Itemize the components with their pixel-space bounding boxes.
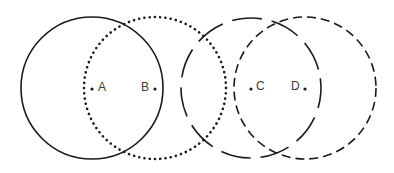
center-point-d (303, 87, 306, 90)
label-a: A (98, 80, 106, 94)
center-point-b (153, 87, 156, 90)
label-c: C (256, 79, 265, 93)
center-point-c (249, 87, 252, 90)
center-point-a (90, 87, 93, 90)
overlapping-circles-diagram: A B C D (0, 0, 394, 173)
label-b: B (141, 80, 149, 94)
label-d: D (291, 79, 300, 93)
